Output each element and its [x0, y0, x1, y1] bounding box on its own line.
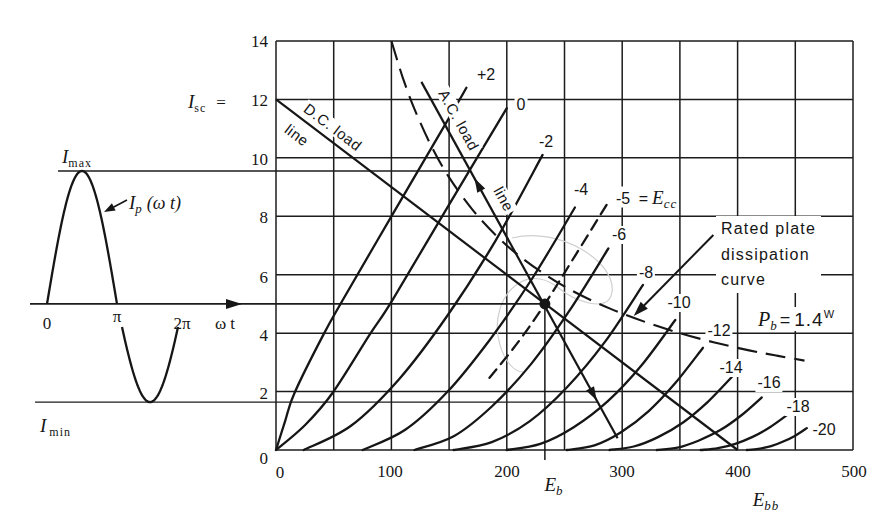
imin-symbol: I: [40, 415, 46, 436]
curve-label-minus12: -12: [705, 322, 732, 340]
imin-subscript: min: [49, 425, 71, 439]
isc-equals: =: [216, 93, 226, 112]
isc-subscript: sc: [194, 101, 206, 115]
eb-label: Eb: [544, 475, 563, 494]
y-tick-2: 2: [218, 385, 268, 402]
ecc-equals: =: [639, 190, 648, 207]
wave-axis-label: ω t: [215, 315, 235, 332]
pb-subscript: b: [770, 318, 778, 333]
curve-label-minus4: -4: [572, 181, 590, 199]
y-tick-8: 8: [218, 209, 268, 226]
curve-label-minus6: -6: [610, 226, 628, 244]
dissipation-label-line3: curve: [721, 267, 816, 293]
curve-label-minus5-ecc: -5 =Ecc: [614, 187, 679, 208]
dissipation-label-line1: Rated plate: [721, 216, 816, 242]
ip-pointer-arrow-icon: [104, 203, 116, 212]
y-tick-14: 14: [218, 33, 268, 50]
ebb-symbol: E: [753, 489, 765, 510]
dissipation-label-line2: dissipation: [721, 242, 816, 268]
curve-label-minus14: -14: [717, 359, 744, 377]
dissipation-label: Rated plate dissipation curve: [716, 216, 821, 293]
imax-subscript: max: [68, 156, 92, 170]
ip-label: Ip (ω t): [129, 193, 181, 212]
eb-symbol: E: [544, 474, 556, 495]
ac-load-line: [421, 82, 617, 438]
imin-label: Imin: [40, 416, 71, 435]
waveform-negative-lobe: [122, 327, 178, 402]
wave-tick-pi: π: [113, 308, 122, 325]
wave-tick-0: 0: [43, 315, 52, 332]
rated-plate-dissipation-curve: [391, 41, 804, 361]
wave-tick-2pi: 2π: [173, 315, 190, 332]
x-tick-500: 500: [841, 463, 867, 480]
curve-label-minus8: -8: [637, 264, 655, 282]
operating-point: [539, 298, 550, 309]
y-tick-0: 0: [218, 450, 268, 467]
imax-label: Imax: [62, 147, 92, 166]
x-tick-400: 400: [725, 463, 751, 480]
x-tick-300: 300: [609, 463, 635, 480]
curve-label-0: 0: [515, 96, 528, 114]
ecc-subscript: cc: [664, 196, 678, 211]
curve-label-minus16: -16: [755, 374, 782, 392]
wave-axis-arrow-icon: [226, 299, 242, 309]
isc-label: Isc =: [188, 92, 226, 111]
pb-unit: W: [824, 308, 834, 320]
eb-subscript: b: [556, 483, 564, 498]
pb-value: 1.4: [794, 309, 823, 330]
pb-equals: =: [780, 310, 791, 330]
x-tick-100: 100: [377, 463, 403, 480]
grid-curve-minus4: [363, 208, 575, 451]
curve-label-plus2: +2: [475, 66, 497, 84]
x-tick-0: 0: [276, 464, 285, 481]
dissipation-curve: [391, 41, 804, 361]
curve-label-minus2: -2: [537, 133, 555, 151]
curve-label-minus18: -18: [784, 398, 811, 416]
grid-curve-minus20: [747, 428, 807, 450]
curve-label-minus20: -20: [810, 421, 837, 439]
ip-argument: (ω t): [147, 193, 181, 213]
curve-label-minus5: -5: [616, 190, 630, 207]
ebb-label: Ebb: [753, 490, 780, 509]
ac-load-arrow-down-icon: [586, 386, 597, 400]
waveform-positive-lobe: [47, 171, 117, 304]
curve-label-minus10: -10: [665, 294, 692, 312]
y-tick-10: 10: [218, 151, 268, 168]
ip-subscript: p: [135, 201, 143, 216]
x-tick-200: 200: [494, 463, 520, 480]
y-tick-6: 6: [218, 269, 268, 286]
pb-label: Pb= 1.4W: [754, 307, 838, 331]
ac-load-arrow-up-icon: [474, 178, 485, 192]
ebb-subscript: bb: [764, 498, 779, 513]
pb-symbol: P: [758, 308, 770, 330]
grid-curve-minus16: [657, 397, 762, 450]
ecc-symbol: E: [652, 187, 664, 208]
